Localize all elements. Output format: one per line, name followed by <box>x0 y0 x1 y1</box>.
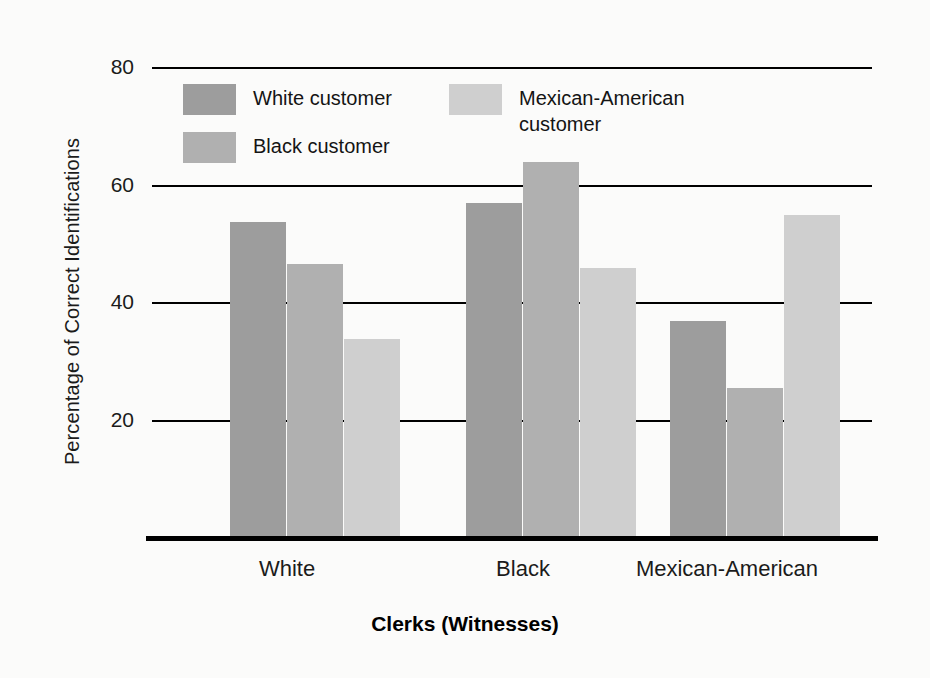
y-axis-title: Percentage of Correct Identifications <box>61 82 84 522</box>
legend: White customer Black customer Mexican-Am… <box>183 84 703 164</box>
x-axis-line <box>146 536 878 541</box>
bar <box>466 203 522 537</box>
bar-chart-figure: Percentage of Correct Identifications 20… <box>0 0 930 678</box>
y-axis-tick-label: 40 <box>88 290 134 314</box>
legend-swatch-icon <box>449 84 502 115</box>
legend-label: Black customer <box>253 133 390 159</box>
bar <box>580 268 636 537</box>
legend-label: White customer <box>253 85 392 111</box>
bar <box>784 215 840 537</box>
legend-entry: Black customer <box>183 132 390 163</box>
legend-swatch-icon <box>183 132 236 163</box>
bar <box>230 222 286 537</box>
legend-label: Mexican-American customer <box>519 85 685 137</box>
bar <box>727 388 783 537</box>
bar <box>523 162 579 537</box>
legend-entry: White customer <box>183 84 392 115</box>
bar <box>670 321 726 537</box>
bar <box>344 339 400 537</box>
y-axis-tick-labels: 20406080 <box>88 0 134 678</box>
legend-entry: Mexican-American customer <box>449 84 685 137</box>
x-axis-title: Clerks (Witnesses) <box>0 612 930 636</box>
y-axis-tick-label: 20 <box>88 408 134 432</box>
bar <box>287 264 343 537</box>
y-axis-tick-label: 60 <box>88 173 134 197</box>
x-axis-tick-label: Mexican-American <box>577 556 877 582</box>
y-axis-tick-label: 80 <box>88 55 134 79</box>
legend-swatch-icon <box>183 84 236 115</box>
